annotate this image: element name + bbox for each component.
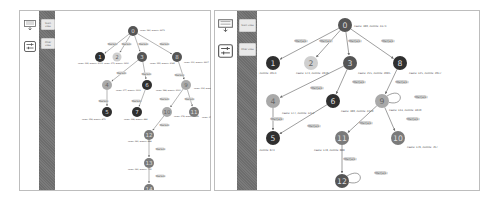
edge-6-7 (139, 90, 145, 107)
node-10[interactable]: 10 (162, 107, 172, 117)
node-1[interactable]: 1 (95, 52, 105, 62)
node-9[interactable]: 9 (181, 80, 191, 90)
node-4[interactable]: 4 (102, 80, 112, 90)
edge-label[interactable]: filter(a,b) (414, 95, 427, 99)
node-14[interactable]: 14 (144, 184, 154, 190)
node-6[interactable]: 6 (142, 80, 152, 90)
node-info-8: cases: 125, events: 2917 (409, 72, 442, 75)
node-4[interactable]: 4 (266, 94, 280, 108)
edge-label[interactable]: filter(a,b) (141, 72, 151, 75)
svg-text:filter(a,b): filter(a,b) (381, 39, 394, 43)
filter-view-button[interactable]: Filter view (239, 43, 256, 56)
svg-text:filter(a,b): filter(a,b) (155, 175, 165, 178)
node-info-12: cases: 181, events: 888 (128, 140, 152, 143)
node-5[interactable]: 5 (102, 107, 112, 117)
start-view-button[interactable]: Start view (41, 19, 55, 30)
node-7[interactable]: 7 (132, 107, 142, 117)
edge-label[interactable]: filter(a,b) (107, 42, 117, 45)
filter-view-button[interactable]: Filter view (41, 38, 55, 49)
node-9[interactable]: 9 (375, 94, 389, 108)
node-5[interactable]: 5 (266, 131, 280, 145)
svg-text:6: 6 (145, 82, 149, 88)
node-0[interactable]: 0 (338, 18, 352, 32)
node-11[interactable]: 11 (189, 107, 199, 117)
node-0[interactable]: 0 (128, 26, 138, 36)
edge-label[interactable]: filter(a,b) (319, 39, 332, 43)
left-graph-canvas[interactable]: filter(a,b)filter(a,b)filter(a,b)filter(… (56, 11, 210, 190)
edge-label[interactable]: filter(a,b) (381, 39, 394, 43)
edge-label[interactable]: filter(a,b) (406, 117, 419, 121)
node-3[interactable]: 3 (137, 52, 147, 62)
edge-label[interactable]: filter(a,b) (307, 124, 320, 128)
svg-text:5: 5 (271, 134, 276, 143)
node-info-9: cases: 134, events: 1830 (194, 87, 211, 90)
edge-label[interactable]: filter(a,b) (138, 42, 148, 45)
edge-label[interactable]: filter(a,b) (159, 97, 169, 100)
edge-label[interactable]: filter(a,b) (159, 42, 169, 45)
svg-text:11: 11 (191, 109, 198, 115)
edge-label[interactable]: filter(a,b) (294, 39, 307, 43)
svg-text:filter(a,b): filter(a,b) (414, 95, 427, 99)
right-process-graph[interactable]: filter(a,b)filter(a,b)filter(a,b)filter(… (258, 11, 480, 190)
right-side-strip: Start view Filter view (237, 11, 257, 190)
svg-text:4: 4 (271, 97, 276, 106)
node-info-8: cases: 131, events: 2917 (184, 61, 210, 64)
edge-label[interactable]: filter(a,b) (348, 39, 361, 43)
edge-label[interactable]: filter(a,b) (395, 80, 408, 84)
edge-label[interactable]: filter(a,b) (352, 80, 365, 84)
edge-label[interactable]: filter(a,b) (155, 174, 165, 177)
svg-text:8: 8 (398, 59, 403, 68)
node-info-0: cases: 380, events: 2473 (140, 29, 166, 32)
left-process-graph[interactable]: filter(a,b)filter(a,b)filter(a,b)filter(… (56, 11, 211, 190)
svg-text:filter(a,b): filter(a,b) (155, 148, 165, 151)
node-1[interactable]: 1 (266, 56, 280, 70)
filter-settings-icon[interactable] (23, 40, 36, 52)
edge-label[interactable]: filter(a,b) (121, 42, 131, 45)
edge-label[interactable]: filter(a,b) (131, 99, 141, 102)
node-info-10: cases: 176, events: 767 (407, 146, 438, 149)
svg-text:4: 4 (105, 82, 109, 88)
node-12[interactable]: 12 (335, 174, 349, 188)
filter-settings-icon[interactable] (218, 44, 233, 58)
node-10[interactable]: 10 (391, 131, 405, 145)
svg-text:8: 8 (175, 54, 179, 60)
node-11[interactable]: 11 (335, 131, 349, 145)
process-map-icon[interactable] (218, 19, 233, 33)
node-12[interactable]: 12 (144, 130, 154, 140)
svg-text:filter(a,b): filter(a,b) (159, 124, 169, 127)
edge-label[interactable]: filter(a,b) (174, 73, 184, 76)
svg-text:filter(a,b): filter(a,b) (98, 100, 108, 103)
svg-text:0: 0 (131, 28, 135, 34)
edge-label[interactable]: filter(a,b) (159, 123, 169, 126)
svg-text:12: 12 (146, 132, 153, 138)
node-13[interactable]: 13 (144, 158, 154, 168)
svg-text:10: 10 (393, 134, 403, 143)
node-info-0: cases: 380, events: 2473 (354, 25, 387, 28)
process-map-icon[interactable] (23, 19, 36, 31)
node-info-3: cases: 355, events: 2085 (150, 62, 176, 65)
edge-label[interactable]: filter(a,b) (98, 99, 108, 102)
node-2[interactable]: 2 (113, 53, 122, 62)
edge-label[interactable]: filter(a,b) (184, 97, 194, 100)
node-3[interactable]: 3 (343, 56, 357, 70)
edge-label[interactable]: filter(a,b) (343, 157, 356, 161)
node-info-7: cases: 148, events: 889 (124, 118, 148, 121)
node-2[interactable]: 2 (304, 56, 318, 70)
node-8[interactable]: 8 (172, 52, 182, 62)
start-view-button[interactable]: Start view (239, 19, 256, 32)
svg-text:filter(a,b): filter(a,b) (107, 43, 117, 46)
edge-label[interactable]: filter(a,b) (310, 86, 323, 90)
edge-label[interactable]: filter(a,b) (359, 121, 372, 125)
edge-label[interactable]: filter(a,b) (155, 147, 165, 150)
edge-label[interactable]: filter(a,b) (374, 171, 387, 175)
node-8[interactable]: 8 (393, 56, 407, 70)
edge-label[interactable]: filter(a,b) (270, 117, 283, 121)
svg-text:filter(a,b): filter(a,b) (159, 43, 169, 46)
svg-text:filter(a,b): filter(a,b) (141, 73, 151, 76)
right-graph-canvas[interactable]: filter(a,b)filter(a,b)filter(a,b)filter(… (258, 11, 479, 190)
node-6[interactable]: 6 (326, 94, 340, 108)
svg-text:7: 7 (135, 109, 139, 115)
edge-3-6 (143, 62, 146, 79)
edge-label[interactable]: filter(a,b) (116, 71, 126, 74)
svg-text:filter(a,b): filter(a,b) (294, 39, 307, 43)
